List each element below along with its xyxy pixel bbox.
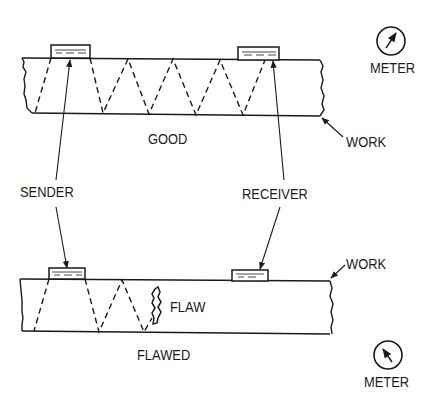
good-label: GOOD (148, 131, 187, 147)
good-sender-transducer (51, 45, 90, 58)
receiver-label: RECEIVER (242, 186, 308, 202)
flawed-sender-transducer (49, 268, 85, 279)
receiver-arrow-top (273, 61, 284, 180)
flawed-receiver-transducer (232, 270, 268, 281)
work-arrow-bottom (331, 265, 345, 278)
flawed-meter-label: METER (364, 374, 409, 390)
flawed-label: FLAWED (137, 347, 190, 363)
meter-dial-icon (377, 27, 405, 55)
flaw-label: FLAW (170, 299, 205, 315)
flawed-work-label: WORK (346, 256, 386, 272)
receiver-arrow-bottom (260, 207, 280, 269)
flaw-crack (152, 287, 161, 324)
sender-arrow-bottom (56, 207, 67, 268)
leader-arrows (56, 60, 345, 278)
sender-arrow-top (56, 60, 70, 180)
meter-dial-icon (374, 341, 402, 369)
flawed-sound-path (34, 279, 152, 332)
good-work-label: WORK (346, 134, 386, 150)
good-receiver-transducer (238, 47, 279, 60)
sender-label: SENDER (20, 184, 74, 200)
work-arrow-top (322, 118, 343, 137)
good-meter-label: METER (370, 60, 415, 76)
